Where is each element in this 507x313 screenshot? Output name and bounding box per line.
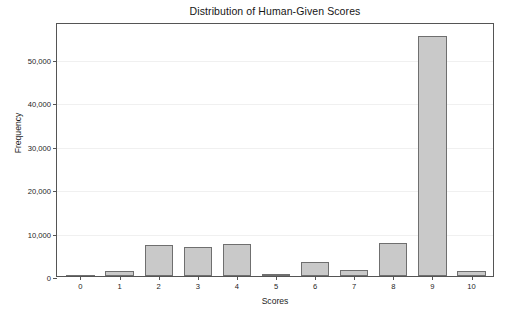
y-axis-label: Frequency bbox=[13, 93, 23, 173]
x-tick-mark bbox=[472, 276, 473, 280]
x-tick-label: 9 bbox=[430, 282, 434, 291]
y-tick-mark bbox=[53, 235, 57, 236]
x-tick-mark bbox=[393, 276, 394, 280]
bar bbox=[379, 243, 407, 276]
bar bbox=[223, 244, 251, 276]
chart-title: Distribution of Human-Given Scores bbox=[56, 5, 494, 17]
x-tick-label: 10 bbox=[467, 282, 475, 291]
x-tick-label: 4 bbox=[235, 282, 239, 291]
x-tick-label: 5 bbox=[274, 282, 278, 291]
x-tick-label: 3 bbox=[196, 282, 200, 291]
y-tick-mark bbox=[53, 61, 57, 62]
chart-figure: Distribution of Human-Given Scores Frequ… bbox=[0, 0, 507, 313]
bar bbox=[145, 245, 173, 276]
bar bbox=[184, 247, 212, 276]
y-tick-mark bbox=[53, 104, 57, 105]
y-tick-label: 10,000 bbox=[28, 230, 51, 239]
y-tick-label: 20,000 bbox=[28, 187, 51, 196]
x-tick-mark bbox=[354, 276, 355, 280]
x-tick-mark bbox=[237, 276, 238, 280]
x-tick-label: 0 bbox=[78, 282, 82, 291]
y-tick-label: 30,000 bbox=[28, 143, 51, 152]
y-tick-mark bbox=[53, 191, 57, 192]
plot-inner: 010,00020,00030,00040,00050,000 01234567… bbox=[57, 24, 493, 276]
x-tick-mark bbox=[159, 276, 160, 280]
x-tick-label: 2 bbox=[157, 282, 161, 291]
x-tick-mark bbox=[315, 276, 316, 280]
plot-area: 010,00020,00030,00040,00050,000 01234567… bbox=[56, 23, 494, 277]
y-tick-label: 50,000 bbox=[28, 56, 51, 65]
x-tick-label: 6 bbox=[313, 282, 317, 291]
x-tick-mark bbox=[120, 276, 121, 280]
y-tick-mark bbox=[53, 148, 57, 149]
x-tick-mark bbox=[80, 276, 81, 280]
x-tick-label: 7 bbox=[352, 282, 356, 291]
x-tick-mark bbox=[198, 276, 199, 280]
x-tick-label: 1 bbox=[117, 282, 121, 291]
bar bbox=[301, 262, 329, 276]
x-tick-mark bbox=[276, 276, 277, 280]
y-tick-label: 0 bbox=[47, 274, 51, 283]
y-tick-mark bbox=[53, 278, 57, 279]
x-tick-mark bbox=[432, 276, 433, 280]
y-tick-label: 40,000 bbox=[28, 100, 51, 109]
x-axis-label: Scores bbox=[56, 296, 494, 306]
x-tick-label: 8 bbox=[391, 282, 395, 291]
bar bbox=[418, 36, 446, 276]
